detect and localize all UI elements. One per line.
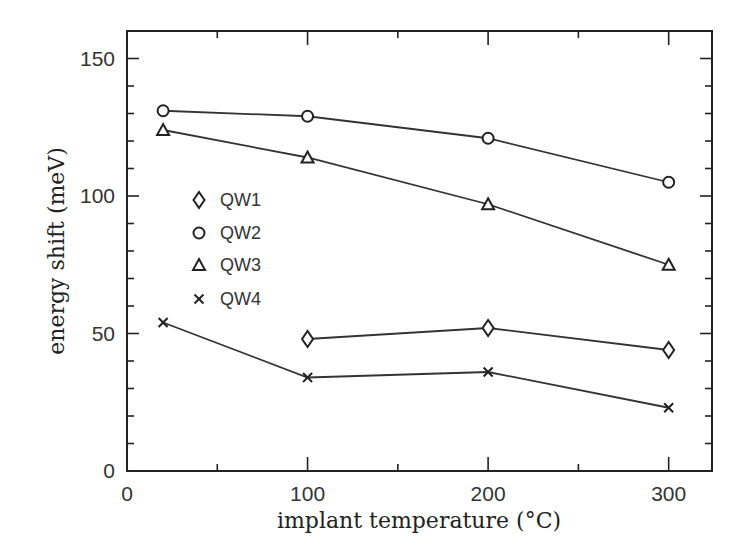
circle-icon (194, 228, 205, 239)
x-tick-label: 100 (290, 482, 325, 505)
legend-label: QW3 (220, 255, 261, 275)
legend-item-qw4: QW4 (195, 289, 262, 309)
diamond-marker-icon (302, 331, 313, 347)
legend-item-qw3: QW3 (193, 255, 261, 275)
triangle-marker-icon (157, 124, 169, 135)
y-tick-label: 50 (92, 322, 115, 345)
circle-marker-icon (158, 105, 169, 116)
cross-marker-icon (159, 318, 168, 327)
series-line (163, 111, 669, 183)
x-tick-label: 300 (651, 482, 686, 505)
circle-marker-icon (483, 133, 494, 144)
legend-label: QW2 (220, 223, 261, 243)
series-line (163, 323, 669, 408)
x-tick-label: 200 (471, 482, 506, 505)
diamond-marker-icon (483, 320, 494, 336)
legend-label: QW4 (220, 289, 261, 309)
triangle-icon (193, 259, 205, 270)
diamond-icon (194, 192, 205, 208)
y-axis-title: energy shift (meV) (44, 147, 69, 355)
y-tick-label: 150 (80, 47, 115, 70)
line-chart: 050100150 0100200300 implant temperature… (0, 0, 747, 558)
series-qw1 (302, 320, 674, 358)
y-tick-label: 100 (80, 184, 115, 207)
y-tick-label: 0 (103, 459, 115, 482)
y-axis-tick-labels: 050100150 (80, 47, 115, 483)
legend: QW1QW2QW3QW4 (193, 190, 261, 309)
diamond-marker-icon (663, 342, 674, 358)
x-axis-tick-labels: 0100200300 (121, 482, 686, 505)
axis-ticks (127, 31, 712, 471)
x-tick-label: 0 (121, 482, 133, 505)
series-qw2 (158, 105, 675, 188)
legend-item-qw2: QW2 (194, 223, 262, 243)
legend-item-qw1: QW1 (194, 190, 262, 210)
plot-frame (127, 31, 712, 471)
legend-label: QW1 (220, 190, 261, 210)
circle-marker-icon (663, 177, 674, 188)
x-axis-title: implant temperature (°C) (277, 508, 561, 533)
circle-marker-icon (302, 111, 313, 122)
cross-icon (195, 295, 204, 304)
